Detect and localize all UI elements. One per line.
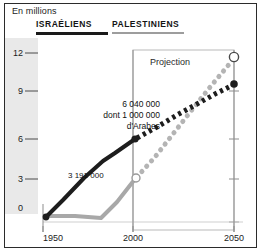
legend-swatch-palestiniens xyxy=(112,32,184,34)
annotation-israeliens-line3: d'Arabes xyxy=(55,121,160,132)
legend-item-palestiniens: PALESTINIENS xyxy=(112,19,184,34)
annotation-israeliens: 6 040 000 dont 1 000 000 d'Arabes xyxy=(55,99,160,132)
legend-label-israeliens: ISRAÉLIENS xyxy=(36,19,108,29)
series-line-palestiniens-observed xyxy=(46,179,135,218)
x-tick-label-1950: 1950 xyxy=(43,233,63,243)
annotation-israeliens-line2: dont 1 000 000 xyxy=(55,110,160,121)
y-tick-label-9: 9 xyxy=(18,86,23,96)
chart-svg: 12 9 6 3 0 xyxy=(5,36,251,244)
marker-palestiniens-2050 xyxy=(229,52,238,61)
plot-area: 12 9 6 3 0 xyxy=(5,36,251,244)
marker-israeliens-2050 xyxy=(230,80,238,88)
y-tick-label-0: 0 xyxy=(18,203,23,213)
x-tick-label-2050: 2050 xyxy=(224,233,244,243)
y-tick-label-3: 3 xyxy=(18,174,23,184)
marker-israeliens-2005 xyxy=(131,135,138,142)
projection-label: Projection xyxy=(150,57,190,67)
y-tick-label-6: 6 xyxy=(18,134,23,144)
marker-palestiniens-2005 xyxy=(132,174,140,182)
chart-figure: En millions ISRAÉLIENS PALESTINIENS 12 9… xyxy=(0,0,261,252)
y-tick-label-12: 12 xyxy=(13,48,23,58)
x-tick-label-2000: 2000 xyxy=(123,233,143,243)
y-axis-ticks: 12 9 6 3 0 xyxy=(13,48,38,213)
annotation-palestiniens: 3 191 000 xyxy=(68,171,104,180)
x-axis-tick-labels: 1950 2000 2050 xyxy=(43,233,244,243)
legend-swatch-israeliens xyxy=(36,32,108,35)
annotation-israeliens-line1: 6 040 000 xyxy=(55,99,160,110)
chart-units-caption: En millions xyxy=(12,6,57,16)
legend-label-palestiniens: PALESTINIENS xyxy=(112,19,184,29)
legend-item-israeliens: ISRAÉLIENS xyxy=(36,19,108,35)
marker-israeliens-1950 xyxy=(43,214,50,221)
